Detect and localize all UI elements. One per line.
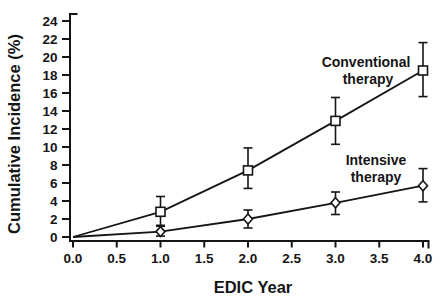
x-tick-label: 0.5 [107, 251, 126, 266]
intensive-therapy-label-line2: therapy [351, 169, 402, 185]
x-tick-label: 3.5 [370, 251, 389, 266]
x-tick-label: 1.0 [151, 251, 170, 266]
retinopathy-incidence-chart: 0246810121416182022240.00.51.01.52.02.53… [0, 0, 442, 306]
x-axis-title: EDIC Year [214, 278, 293, 296]
intensive-therapy-label-line1: Intensive [346, 152, 407, 168]
x-tick-label: 1.5 [195, 251, 214, 266]
conventional-therapy-label-line1: Conventional [322, 54, 411, 70]
conventional-therapy-label-line2: therapy [343, 71, 394, 87]
x-tick-label: 3.0 [326, 251, 345, 266]
axes: 0246810121416182022240.00.51.01.52.02.53… [42, 14, 432, 266]
y-tick-label: 8 [50, 158, 58, 173]
y-tick-label: 2 [50, 212, 58, 227]
y-tick-label: 10 [42, 140, 57, 155]
y-tick-label: 16 [42, 86, 58, 101]
y-tick-label: 18 [42, 68, 58, 83]
y-tick-label: 14 [42, 104, 58, 119]
y-tick-label: 20 [42, 50, 57, 65]
x-tick-label: 2.5 [282, 251, 301, 266]
x-tick-label: 0.0 [64, 251, 83, 266]
x-tick-label: 4.0 [414, 251, 433, 266]
y-tick-label: 22 [42, 32, 57, 47]
y-tick-label: 0 [50, 230, 58, 245]
y-tick-label: 6 [50, 176, 58, 191]
plot-svg: 0246810121416182022240.00.51.01.52.02.53… [0, 0, 442, 306]
y-tick-label: 12 [42, 122, 57, 137]
x-tick-label: 2.0 [239, 251, 258, 266]
y-tick-label: 24 [42, 14, 58, 29]
y-tick-label: 4 [50, 194, 58, 209]
y-axis-title: Cumulative Incidence (%) [5, 34, 23, 234]
